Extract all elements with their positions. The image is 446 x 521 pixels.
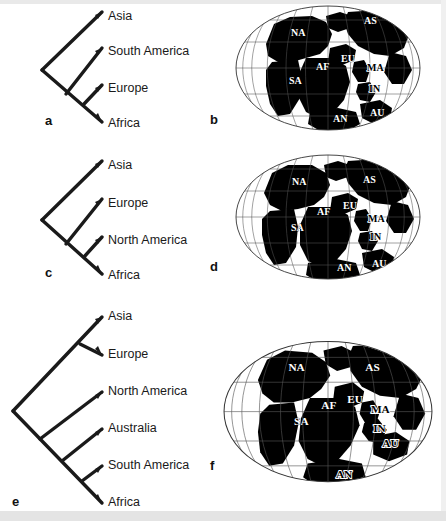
tree-e-tip-australia: Australia	[108, 422, 157, 435]
figure-root: Asia South America Europe Africa a	[0, 0, 446, 521]
tree-e-svg	[0, 297, 215, 521]
tree-c-tip-europe: Europe	[108, 197, 148, 210]
tree-e-tip-south-america: South America	[108, 459, 189, 472]
panel-letter-e: e	[12, 494, 19, 509]
map-f-label-ma: MA	[371, 403, 391, 415]
map-b-label-an: AN	[333, 113, 348, 124]
panel-c-cladogram: Asia Europe North America Africa c	[0, 147, 215, 295]
branch-asia	[13, 317, 102, 411]
map-b-label-au: AU	[370, 107, 384, 118]
map-d-label-af: AF	[317, 206, 330, 217]
branch-north-america	[40, 392, 102, 439]
map-f-label-an: AN	[336, 468, 353, 480]
tree-c-tip-arrows	[95, 161, 102, 274]
map-b-label-sa: SA	[289, 75, 303, 86]
map-b-svg: NA AS EU AF MA SA IN AN AU	[215, 0, 441, 145]
panel-b-map: NA AS EU AF MA SA IN AN AU b	[215, 0, 441, 145]
panel-a-cladogram: Asia South America Europe Africa a	[0, 0, 215, 145]
panel-d-map: NA AS EU AF MA SA IN AN AU d	[215, 147, 441, 295]
branch-europe	[66, 199, 102, 244]
tree-e-tip-north-america: North America	[108, 385, 187, 398]
tree-e-tip-asia: Asia	[108, 310, 132, 323]
panel-letter-c: c	[45, 265, 52, 280]
map-d-label-na: NA	[292, 176, 307, 187]
map-d-label-as: AS	[363, 174, 376, 185]
tree-a-tip-asia: Asia	[108, 10, 132, 23]
panel-letter-b: b	[210, 112, 218, 127]
panel-f-map: NA AS EU AF MA SA IN AU AN f	[215, 330, 441, 500]
map-d-label-sa: SA	[291, 222, 305, 233]
map-d-label-ma: MA	[368, 213, 385, 224]
panel-letter-f: f	[210, 458, 214, 473]
panel-e-cladogram: Asia Europe North America Australia Sout…	[0, 297, 215, 521]
tree-a-tip-europe: Europe	[108, 82, 148, 95]
map-f-svg: NA AS EU AF MA SA IN AU AN	[215, 330, 441, 500]
right-edge-strip	[441, 0, 446, 521]
map-d-svg: NA AS EU AF MA SA IN AN AU	[215, 147, 441, 295]
branch-south-america	[66, 48, 102, 94]
map-b-label-eu: EU	[341, 53, 355, 64]
map-d-label-au: AU	[372, 258, 386, 269]
tree-a-tip-arrows	[95, 12, 102, 122]
map-b-label-in: IN	[369, 83, 381, 94]
map-f-label-as: AS	[365, 361, 379, 373]
map-b-label-as: AS	[364, 15, 377, 26]
panel-letter-d: d	[210, 259, 218, 274]
branch-australia	[62, 429, 102, 461]
map-d-label-eu: EU	[343, 200, 357, 211]
map-f-label-na: NA	[288, 361, 305, 373]
tree-e-tip-arrows	[95, 317, 102, 503]
tree-e-tip-europe: Europe	[108, 348, 148, 361]
map-b-label-af: AF	[316, 61, 329, 72]
panel-letter-a: a	[45, 113, 52, 128]
map-b-label-ma: MA	[367, 62, 384, 73]
tree-e-tip-africa: Africa	[108, 496, 140, 509]
map-f-label-sa: SA	[294, 415, 309, 427]
tree-a-tip-south-america: South America	[108, 45, 189, 58]
map-b-label-na: NA	[291, 27, 306, 38]
map-d-label-in: IN	[370, 231, 382, 242]
tree-c-tip-north-america: North America	[108, 234, 187, 247]
tree-a-tip-africa: Africa	[108, 117, 140, 130]
map-f-label-in: IN	[373, 422, 386, 434]
tree-c-tip-asia: Asia	[108, 159, 132, 172]
map-f-label-af: AF	[321, 399, 336, 411]
map-f-label-eu: EU	[347, 393, 363, 405]
tree-c-tip-africa: Africa	[108, 269, 140, 282]
map-d-label-an: AN	[337, 262, 352, 273]
map-f-label-au: AU	[382, 437, 398, 449]
